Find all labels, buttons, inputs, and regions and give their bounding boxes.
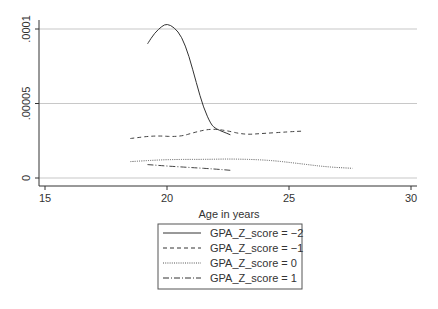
- legend-label: GPA_Z_score = −2: [210, 227, 303, 239]
- series-line-solid: [148, 24, 231, 134]
- legend-label: GPA_Z_score = 1: [210, 272, 297, 284]
- x-tick-label: 15: [39, 192, 51, 204]
- line-chart: .0001 .00005 0 15 20 25 30 Age in years …: [0, 0, 438, 309]
- x-tick-label: 30: [405, 192, 417, 204]
- gridlines: [39, 29, 417, 178]
- axes: [35, 20, 417, 190]
- series-line-dashed: [130, 129, 303, 138]
- series-line-dotted: [130, 159, 352, 168]
- x-axis-title: Age in years: [198, 208, 260, 220]
- legend: GPA_Z_score = −2 GPA_Z_score = −1 GPA_Z_…: [158, 224, 303, 289]
- series-line-dashdot: [148, 165, 231, 171]
- series-group: [130, 24, 352, 170]
- y-tick-label: .00005: [20, 87, 32, 121]
- y-tick-label: 0: [20, 175, 32, 181]
- x-tick-label: 20: [161, 192, 173, 204]
- legend-label: GPA_Z_score = −1: [210, 242, 303, 254]
- legend-label: GPA_Z_score = 0: [210, 257, 297, 269]
- x-tick-label: 25: [283, 192, 295, 204]
- y-tick-label: .0001: [20, 15, 32, 43]
